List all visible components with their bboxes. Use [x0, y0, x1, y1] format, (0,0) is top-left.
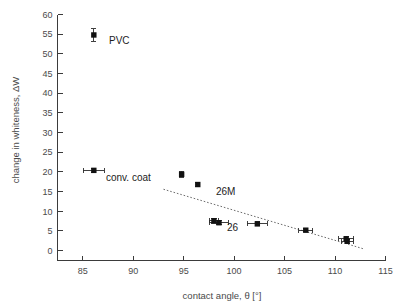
scatter-plot: 859095100105110115 051015202530354045505…: [0, 0, 405, 308]
y-tick-label: 25: [42, 147, 52, 157]
chart-figure: 859095100105110115 051015202530354045505…: [0, 0, 405, 308]
y-tick-label: 10: [42, 207, 52, 217]
y-tick-label: 30: [42, 128, 52, 138]
y-tick-label: 35: [42, 108, 52, 118]
y-tick-label: 50: [42, 49, 52, 59]
y-axis-title: change in whiteness, ΔW: [10, 77, 21, 184]
label-conv-coat: conv. coat: [106, 172, 151, 183]
y-axis-ticks: 051015202530354045505560: [42, 10, 62, 256]
y-tick-label: 40: [42, 88, 52, 98]
x-tick-label: 115: [378, 266, 392, 276]
data-point-marker: [216, 220, 221, 225]
x-axis-ticks: 859095100105110115: [78, 256, 393, 276]
trend-line-dotted: [163, 189, 364, 249]
data-point-marker: [91, 168, 96, 173]
data-point-marker: [195, 182, 200, 187]
data-point-marker: [344, 239, 349, 244]
x-tick-label: 110: [328, 266, 342, 276]
y-tick-label: 60: [42, 10, 52, 20]
x-tick-label: 95: [179, 266, 189, 276]
data-point-marker: [211, 218, 216, 223]
data-point-marker: [303, 227, 308, 232]
data-point-marker: [179, 172, 184, 177]
y-tick-label: 45: [42, 69, 52, 79]
x-tick-label: 90: [128, 266, 138, 276]
x-axis-title: contact angle, θ [°]: [183, 290, 262, 301]
x-tick-label: 85: [78, 266, 88, 276]
label-pvc: PVC: [109, 35, 130, 46]
x-tick-label: 100: [227, 266, 242, 276]
y-tick-label: 55: [42, 29, 52, 39]
y-tick-label: 20: [42, 167, 52, 177]
y-tick-label: 0: [47, 246, 52, 256]
y-tick-label: 5: [47, 226, 52, 236]
error-bars: [83, 29, 353, 244]
label-26m: 26M: [216, 186, 235, 197]
data-points: [91, 32, 350, 244]
x-tick-label: 105: [277, 266, 292, 276]
label-26: 26: [227, 222, 239, 233]
data-point-marker: [91, 32, 96, 37]
y-tick-label: 15: [42, 187, 52, 197]
data-point-marker: [255, 221, 260, 226]
point-labels: PVCconv. coat26M26: [106, 35, 239, 234]
trend-line: [163, 189, 364, 249]
